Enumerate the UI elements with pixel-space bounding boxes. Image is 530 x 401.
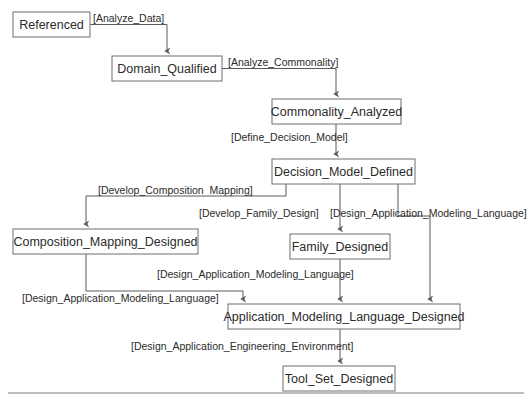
node-application-modeling-language-designed[interactable]: Application_Modeling_Language_Designed xyxy=(223,304,464,329)
edge-label-analyze-data: [Analyze_Data] xyxy=(93,12,164,24)
node-decision-model-defined[interactable]: Decision_Model_Defined xyxy=(272,159,415,184)
edge-label-design-aml-from-composition: [Design_Application_Modeling_Language] xyxy=(22,292,219,304)
edge-label-design-application-engineering-environment: [Design_Application_Engineering_Environm… xyxy=(131,340,353,352)
edge-label-develop-composition-mapping: [Develop_Composition Mapping] xyxy=(98,184,253,196)
node-label-composition-mapping-designed: Composition_Mapping_Designed xyxy=(13,235,197,249)
node-commonality-analyzed[interactable]: Commonality_Analyzed xyxy=(271,99,402,124)
diagram-canvas: [Analyze_Data] [Analyze_Commonality] [De… xyxy=(0,0,530,401)
edge-referenced-to-domain xyxy=(90,25,167,52)
node-label-commonality-analyzed: Commonality_Analyzed xyxy=(271,105,402,119)
node-label-decision-model-defined: Decision_Model_Defined xyxy=(274,165,413,179)
node-label-tool-set-designed: Tool_Set_Designed xyxy=(285,372,393,386)
edge-label-define-decision-model: [Define_Decision_Model] xyxy=(231,131,348,143)
edge-label-develop-family-design: [Develop_Family_Design] xyxy=(199,207,319,219)
node-referenced[interactable]: Referenced xyxy=(13,12,90,37)
node-composition-mapping-designed[interactable]: Composition_Mapping_Designed xyxy=(13,229,198,254)
edge-label-design-aml-from-family: [Design_Application_Modeling_Language] xyxy=(157,268,354,280)
edge-domain-to-commonality xyxy=(222,69,336,95)
node-domain-qualified[interactable]: Domain_Qualified xyxy=(112,56,222,81)
edge-label-analyze-commonality: [Analyze_Commonality] xyxy=(228,56,338,68)
edge-decision-to-amld xyxy=(398,184,430,299)
node-tool-set-designed[interactable]: Tool_Set_Designed xyxy=(283,366,395,391)
node-label-referenced: Referenced xyxy=(19,18,84,32)
node-label-domain-qualified: Domain_Qualified xyxy=(117,62,216,76)
node-label-family-designed: Family_Designed xyxy=(292,240,389,254)
node-family-designed[interactable]: Family_Designed xyxy=(290,234,390,259)
state-transition-diagram: [Analyze_Data] [Analyze_Commonality] [De… xyxy=(0,0,530,401)
node-label-application-modeling-language-designed: Application_Modeling_Language_Designed xyxy=(223,310,464,324)
edge-label-design-aml-from-decision: [Design_Application_Modeling_Language] xyxy=(330,207,527,219)
